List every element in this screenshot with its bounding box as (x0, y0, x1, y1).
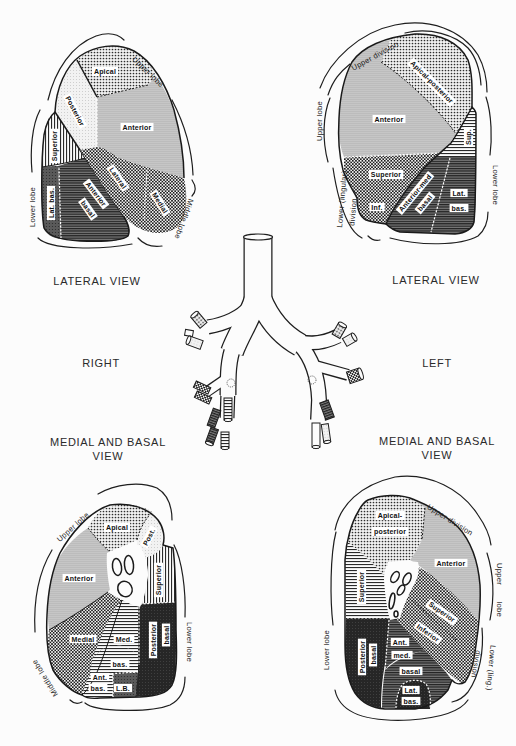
side-label-left: LEFT (422, 357, 452, 369)
label-posterior-basal-line2: basal (369, 644, 377, 667)
svg-text:Posterior: Posterior (150, 624, 157, 657)
label-lateral-basal-line1: Lat. (402, 686, 419, 694)
label-anterior: Anterior (373, 115, 406, 123)
svg-text:bas.: bas. (113, 661, 128, 668)
svg-text:bas.: bas. (452, 205, 467, 212)
label-superior-lingular: Superior (369, 170, 403, 179)
svg-text:basal: basal (163, 626, 170, 645)
label-apical: Apical (92, 67, 118, 76)
lobe-label-lower: Lower lobe (491, 165, 500, 205)
svg-text:Anterior: Anterior (375, 116, 404, 123)
svg-text:Apical-: Apical- (378, 512, 403, 520)
lobe-label-lower: Lower lobe (322, 630, 331, 670)
bronchopulmonary-segments-figure: Apical Posterior Anterior Superior Later… (0, 0, 516, 746)
label-anterior-medial-basal-line1: Ant. (391, 638, 409, 646)
label-posterior-basal-line1: Posterior (358, 639, 366, 676)
svg-text:Lat.: Lat. (452, 190, 465, 197)
label-anterior: Anterior (435, 559, 468, 567)
svg-text:Inf.: Inf. (371, 204, 382, 211)
caption-right-medial-basal-line1: MEDIAL AND BASAL (50, 436, 166, 448)
svg-text:Anterior: Anterior (123, 124, 152, 131)
caption-right-lateral-view: LATERAL VIEW (53, 275, 140, 287)
label-lateral-basal-line1: Lat. (450, 189, 467, 197)
label-apical-posterior-line1: Apical- (376, 511, 405, 520)
label-anterior: Anterior (63, 574, 96, 582)
panel-left-lateral: Apical-posterior Anterior Superior Inf. … (315, 23, 500, 244)
lobe-label-upper: Upper lobe (315, 101, 324, 141)
svg-text:Ant.: Ant. (93, 674, 107, 681)
lobe-label-lower: Lower lobe (28, 187, 37, 227)
svg-text:Medial: Medial (72, 636, 95, 643)
svg-text:Lat.: Lat. (404, 687, 417, 694)
label-apical: Apical (104, 523, 130, 532)
bronchi-lumen (204, 236, 349, 421)
svg-text:Apical: Apical (94, 68, 116, 76)
panel-left-medial-basal: Apical- posterior Anterior Superior Supe… (322, 476, 504, 720)
caption-left-medial-basal-line2: VIEW (422, 449, 453, 461)
svg-text:Superior: Superior (155, 565, 163, 595)
label-medial: Medial (70, 635, 97, 643)
svg-text:med.: med. (393, 652, 410, 659)
svg-text:L.B.: L.B. (116, 685, 130, 692)
svg-text:bas.: bas. (91, 685, 106, 692)
label-superior: Superior (154, 563, 163, 597)
label-lateral-basal-line2: bas. (402, 697, 421, 705)
panel-right-medial-basal: Apical Post. Anterior Superior Medial Me… (30, 484, 193, 710)
lobe-label-lingular-division-line1: Lower (ling.) (485, 645, 498, 691)
lobe-label-upper: Upper lobe (495, 563, 504, 617)
label-basal: bas. (111, 660, 130, 668)
caption-left-lateral-view: LATERAL VIEW (392, 274, 479, 286)
svg-text:Anterior: Anterior (65, 575, 94, 582)
label-anterior-basal-line1: Ant. (91, 673, 109, 681)
label-basal: basal (400, 667, 423, 675)
label-medial-basal: Med. (114, 635, 135, 643)
label-lateral-basal-line2: bas. (450, 204, 469, 212)
label-lateral-basal: L.B. (114, 684, 132, 692)
label-posterior-basal-line1: Posterior (149, 622, 157, 659)
lobe-label-lower: Lower lobe (185, 622, 194, 662)
label-anterior: Anterior (121, 123, 154, 131)
svg-text:Superior: Superior (371, 171, 401, 179)
label-superior: Sup. (464, 127, 473, 147)
svg-text:Sup.: Sup. (465, 129, 473, 145)
svg-text:Anterior: Anterior (437, 560, 466, 567)
svg-text:posterior: posterior (374, 528, 406, 536)
trachea-opening (244, 234, 273, 240)
label-lateral-basal: Lat. bas. (47, 186, 55, 220)
label-superior: Superior (357, 570, 366, 604)
label-anterior-basal-line2: bas. (89, 684, 108, 692)
bronchial-tree (185, 234, 365, 450)
label-apical-posterior-line2: posterior (372, 527, 408, 536)
svg-text:Apical: Apical (106, 524, 128, 532)
caption-left-medial-basal-line1: MEDIAL AND BASAL (379, 435, 495, 447)
svg-text:Superior: Superior (358, 572, 366, 602)
svg-text:basal: basal (370, 646, 377, 665)
caption-right-medial-basal-line2: VIEW (93, 450, 124, 462)
panel-right-lateral: Apical Posterior Anterior Superior Later… (28, 34, 196, 248)
svg-text:Med.: Med. (116, 636, 133, 643)
svg-text:Posterior: Posterior (359, 641, 366, 674)
label-inferior-lingular: Inf. (369, 203, 384, 211)
svg-text:bas.: bas. (404, 698, 419, 705)
svg-text:Ant.: Ant. (393, 639, 407, 646)
svg-text:basal: basal (402, 668, 421, 675)
label-superior: Superior (50, 129, 59, 163)
svg-text:Lat. bas.: Lat. bas. (48, 188, 55, 218)
label-posterior-basal-line2: basal (162, 624, 170, 647)
label-anterior-medial-basal-line2: med. (391, 651, 412, 659)
side-label-right: RIGHT (82, 357, 120, 369)
lobe-label-lingular-division-line2: division (347, 198, 358, 226)
svg-text:Superior: Superior (51, 131, 59, 161)
